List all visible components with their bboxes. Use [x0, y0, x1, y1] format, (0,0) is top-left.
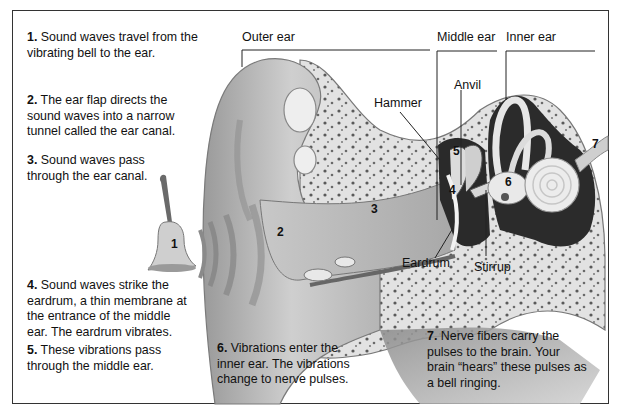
step-6-number: 6.: [217, 341, 227, 355]
label-middle-ear: Middle ear: [437, 30, 495, 44]
step-7-number: 7.: [427, 329, 437, 343]
step-7: 7. Nerve fibers carry the pulses to the …: [427, 329, 587, 391]
step-5: 5. These vibrations pass through the mid…: [27, 343, 177, 374]
marker-4: 4: [449, 183, 456, 197]
step-3-number: 3.: [27, 153, 37, 167]
step-2: 2. The ear flap directs the sound waves …: [27, 93, 197, 140]
marker-5: 5: [453, 144, 460, 158]
step-7-text: Nerve fibers carry the pulses to the bra…: [427, 329, 587, 390]
step-3: 3. Sound waves pass through the ear cana…: [27, 153, 167, 184]
marker-7: 7: [592, 137, 599, 151]
label-outer-ear: Outer ear: [242, 30, 295, 44]
marker-1: 1: [171, 237, 178, 251]
label-hammer: Hammer: [374, 96, 422, 110]
step-1-number: 1.: [27, 30, 37, 44]
bell-icon: [148, 175, 196, 272]
step-1: 1. Sound waves travel from the vibrating…: [27, 30, 202, 61]
marker-6: 6: [505, 175, 512, 189]
step-4: 4. Sound waves strike the eardrum, a thi…: [27, 278, 192, 340]
step-1-text: Sound waves travel from the vibrating be…: [27, 30, 198, 60]
step-4-text: Sound waves strike the eardrum, a thin m…: [27, 278, 187, 339]
label-stirrup: Stirrup: [474, 260, 511, 274]
step-5-number: 5.: [27, 343, 37, 357]
step-4-number: 4.: [27, 278, 37, 292]
step-2-text: The ear flap directs the sound waves int…: [27, 93, 175, 138]
label-inner-ear: Inner ear: [506, 30, 556, 44]
label-eardrum: Eardrum: [402, 256, 450, 270]
marker-2: 2: [277, 225, 284, 239]
step-6-text: Vibrations enter the inner ear. The vibr…: [217, 341, 350, 386]
step-3-text: Sound waves pass through the ear canal.: [27, 153, 148, 183]
step-2-number: 2.: [27, 93, 37, 107]
label-anvil: Anvil: [454, 78, 481, 92]
marker-3: 3: [371, 202, 378, 216]
step-5-text: These vibrations pass through the middle…: [27, 343, 161, 373]
step-6: 6. Vibrations enter the inner ear. The v…: [217, 341, 367, 388]
